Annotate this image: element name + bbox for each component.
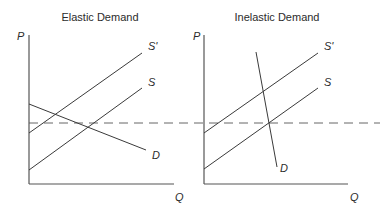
supply-curve	[29, 88, 142, 170]
supply-label: S	[148, 76, 156, 88]
supply-shifted-label: S'	[148, 40, 158, 52]
panel-title: Inelastic Demand	[235, 11, 320, 23]
elasticity-diagram: Elastic Demand P Q S' S D Inelastic Dema…	[0, 0, 380, 215]
panel-elastic: Elastic Demand P Q S' S D	[17, 11, 184, 203]
panel-title: Elastic Demand	[61, 11, 138, 23]
supply-curve	[204, 88, 318, 169]
supply-shifted-label: S'	[324, 40, 334, 52]
supply-curve-shifted	[29, 53, 142, 133]
supply-label: S	[324, 76, 332, 88]
demand-curve	[256, 52, 277, 167]
y-axis-label: P	[17, 30, 25, 42]
demand-curve	[29, 104, 146, 150]
supply-curve-shifted	[204, 53, 318, 133]
demand-label: D	[280, 162, 288, 174]
panel-inelastic: Inelastic Demand P Q S' S D	[193, 11, 359, 203]
y-axis-label: P	[193, 30, 201, 42]
x-axis-label: Q	[175, 191, 184, 203]
demand-label: D	[152, 149, 160, 161]
x-axis-label: Q	[350, 191, 359, 203]
